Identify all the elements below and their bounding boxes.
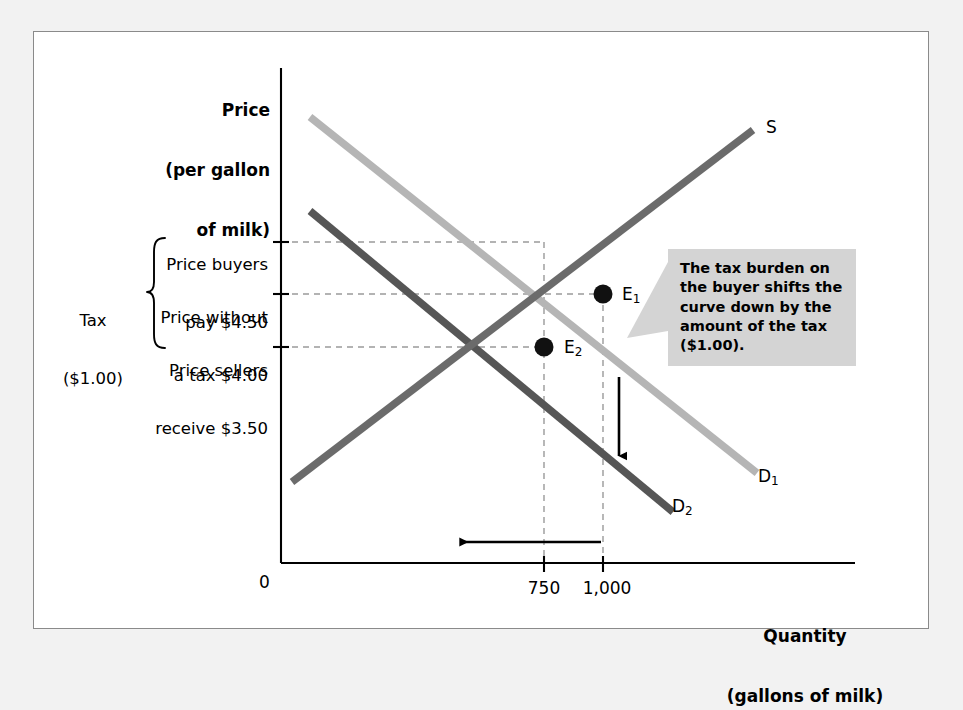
curve-label-demand-1-sub: 1	[771, 474, 779, 488]
curve-label-demand-1: D1	[758, 466, 779, 488]
x-tick-label-750: 750	[519, 578, 569, 598]
point-label-e2-sub: 2	[575, 345, 583, 359]
curve-label-demand-1-text: D	[758, 466, 771, 486]
curve-label-demand-2: D2	[672, 496, 693, 518]
curve-label-supply: S	[766, 117, 777, 137]
point-e1	[594, 285, 613, 304]
guide-lines	[281, 242, 603, 563]
x-axis-title-line2: (gallons of milk)	[700, 686, 910, 706]
point-label-e1: E1	[622, 284, 640, 306]
axis-ticks	[273, 242, 603, 572]
tax-bracket-label: Tax ($1.00)	[42, 272, 144, 428]
point-label-e2-text: E	[564, 337, 575, 357]
x-axis-title-line1: Quantity	[700, 626, 910, 646]
y-axis-title-line1: Price	[130, 100, 270, 120]
tax-bracket-label-line1: Tax	[42, 311, 144, 330]
point-label-e1-text: E	[622, 284, 633, 304]
point-label-e2: E2	[564, 337, 582, 359]
curve-label-demand-2-sub: 2	[685, 504, 693, 518]
point-label-e1-sub: 1	[633, 292, 641, 306]
curve-label-demand-2-text: D	[672, 496, 685, 516]
point-e2	[535, 338, 554, 357]
origin-label: 0	[259, 572, 270, 592]
callout-box: The tax burden on the buyer shifts the c…	[668, 249, 856, 366]
y-axis-title-line2: (per gallon	[130, 160, 270, 180]
x-tick-label-1000: 1,000	[576, 578, 638, 598]
tax-bracket-label-line2: ($1.00)	[42, 369, 144, 388]
x-axis-title: Quantity (gallons of milk)	[700, 586, 910, 710]
